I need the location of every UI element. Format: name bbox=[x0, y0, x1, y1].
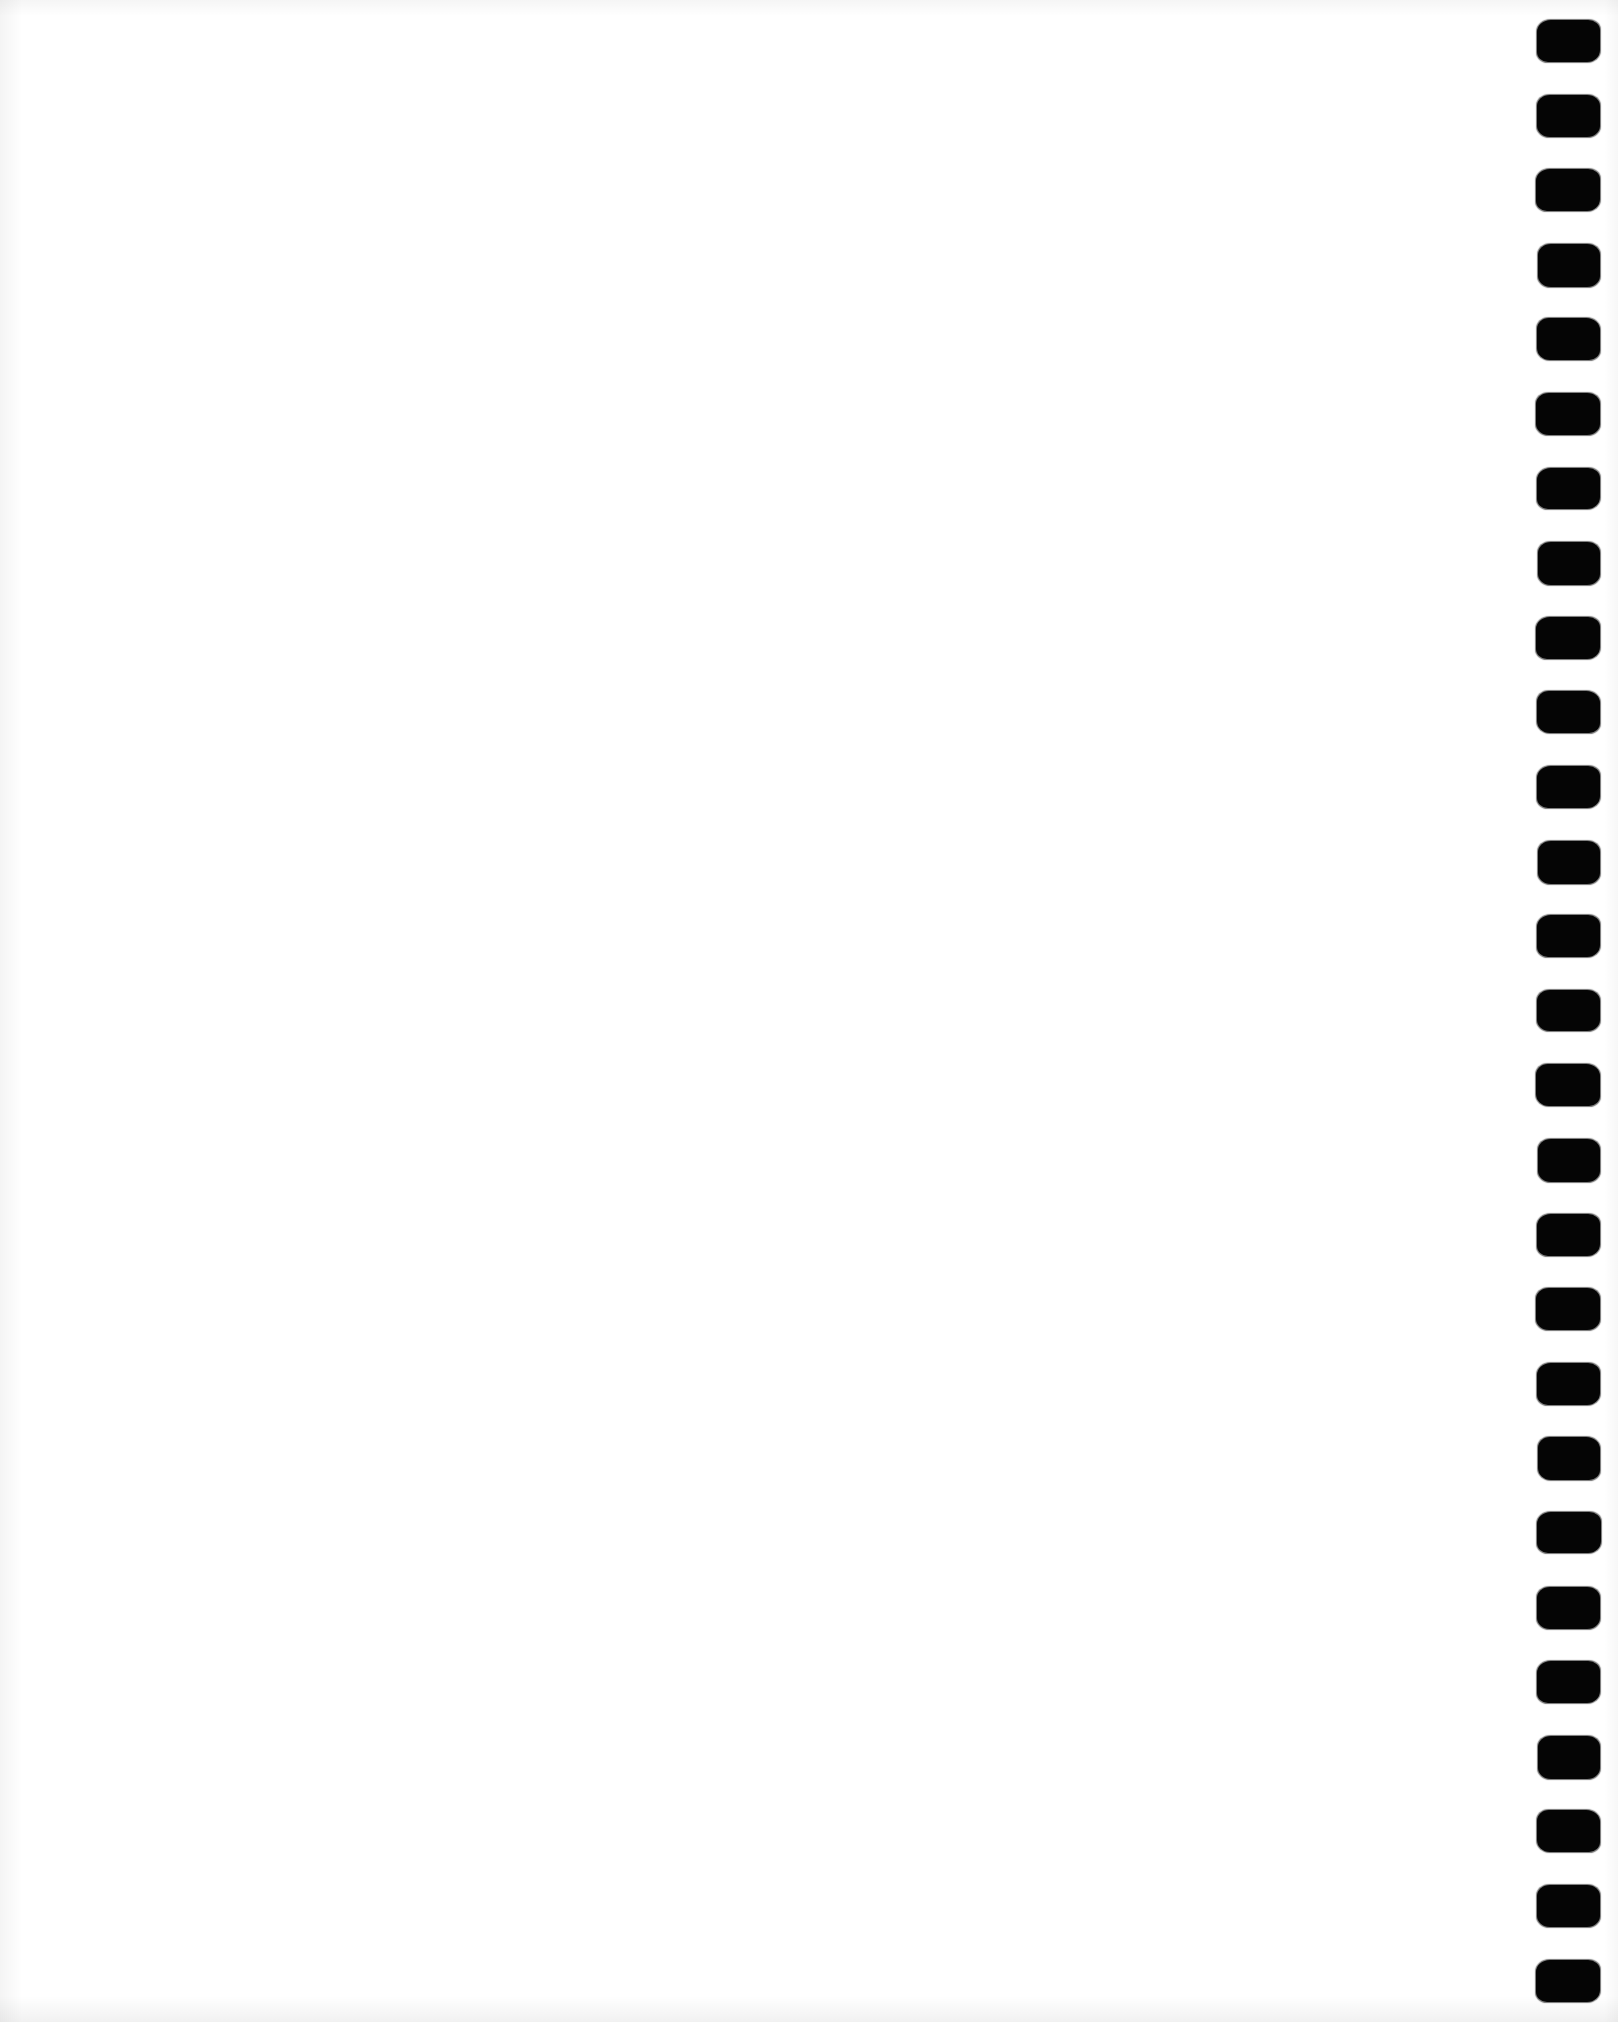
binding-hole bbox=[1536, 1960, 1600, 2002]
binding-hole bbox=[1538, 1736, 1600, 1779]
binding-hole bbox=[1537, 1661, 1600, 1703]
binding-hole bbox=[1537, 20, 1600, 62]
binding-hole bbox=[1537, 990, 1600, 1031]
scanned-page bbox=[0, 0, 1618, 2022]
binding-hole bbox=[1537, 1885, 1600, 1927]
binding-hole bbox=[1537, 1810, 1600, 1852]
binding-hole bbox=[1538, 244, 1600, 287]
binding-hole bbox=[1537, 1587, 1600, 1629]
binding-hole-column bbox=[1530, 0, 1618, 2022]
binding-hole bbox=[1537, 766, 1600, 808]
binding-hole bbox=[1537, 318, 1600, 360]
binding-hole bbox=[1537, 1214, 1600, 1256]
binding-hole bbox=[1536, 1064, 1600, 1106]
binding-hole bbox=[1538, 841, 1600, 884]
binding-hole bbox=[1537, 468, 1600, 509]
binding-hole bbox=[1536, 617, 1600, 659]
binding-hole bbox=[1537, 95, 1600, 137]
binding-hole bbox=[1538, 1437, 1600, 1480]
binding-hole bbox=[1537, 1512, 1601, 1553]
binding-hole bbox=[1537, 1363, 1600, 1405]
binding-hole bbox=[1538, 542, 1600, 585]
binding-hole bbox=[1536, 169, 1600, 211]
binding-hole bbox=[1538, 1139, 1600, 1182]
binding-hole bbox=[1536, 393, 1600, 435]
binding-hole bbox=[1537, 915, 1600, 957]
binding-hole bbox=[1537, 691, 1600, 733]
writing-area bbox=[40, 30, 1500, 1990]
binding-hole bbox=[1536, 1288, 1600, 1330]
